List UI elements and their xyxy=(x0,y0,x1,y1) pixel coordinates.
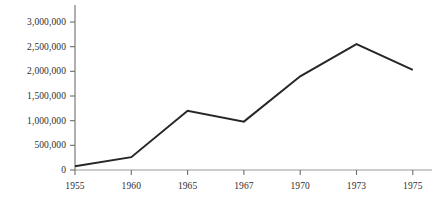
y-axis-tick-label: 1,500,000 xyxy=(27,91,66,101)
x-axis-tick-label: 1965 xyxy=(178,181,197,191)
data-series-line xyxy=(75,44,413,166)
y-axis-tick-label: 2,500,000 xyxy=(27,42,66,52)
y-axis-tick-label: 0 xyxy=(61,165,66,175)
y-axis-tick-label: 2,000,000 xyxy=(27,66,66,76)
x-axis-tick-label: 1960 xyxy=(122,181,141,191)
y-axis-tick-label: 1,000,000 xyxy=(27,116,66,126)
x-axis-tick-label: 1975 xyxy=(403,181,422,191)
chart-canvas xyxy=(0,0,444,206)
x-axis-tick-label: 1973 xyxy=(347,181,366,191)
x-axis-tick-label: 1955 xyxy=(65,181,84,191)
y-axis-tick-label: 500,000 xyxy=(34,140,66,150)
line-chart: 0500,0001,000,0001,500,0002,000,0002,500… xyxy=(0,0,444,206)
x-axis-tick-label: 1967 xyxy=(234,181,253,191)
y-axis-tick-label: 3,000,000 xyxy=(27,17,66,27)
x-axis-ticks xyxy=(75,170,413,175)
y-axis-ticks xyxy=(70,22,75,170)
x-axis-tick-label: 1970 xyxy=(290,181,309,191)
